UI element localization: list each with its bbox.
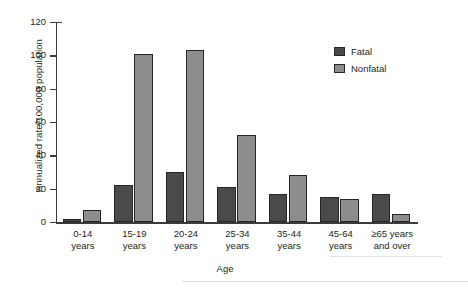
y-tick-label-80: 80 [14,83,46,94]
y-tick-label-20: 20 [14,183,46,194]
bar-fatal [269,194,288,222]
bar-nonfatal [134,54,153,222]
chart-legend: Fatal Nonfatal [334,44,386,78]
bar-nonfatal [289,175,308,222]
bar-group [114,22,153,222]
y-tick-label-60: 60 [14,116,46,127]
y-tick-label-100: 100 [14,49,46,60]
legend-label-fatal: Fatal [351,46,372,57]
bar-nonfatal [392,214,411,222]
bar-nonfatal [83,210,102,222]
bar-group [269,22,308,222]
bar-nonfatal [237,135,256,222]
x-axis-title: Age [0,263,468,274]
y-tick-label-40: 40 [14,149,46,160]
scan-artifact-line [182,281,468,282]
bar-fatal [166,172,185,222]
y-tick-60 [50,122,56,123]
bar-nonfatal [340,199,359,222]
bar-group [63,22,102,222]
y-tick-label-0: 0 [14,216,46,227]
y-tick-20 [50,189,56,190]
y-tick-80 [50,89,56,90]
bar-nonfatal [186,50,205,222]
bar-fatal [217,187,236,222]
x-tick-label-line: ≥65 years [358,228,426,240]
x-axis-baseline [56,222,418,224]
y-tick-100 [50,55,56,56]
legend-item-nonfatal: Nonfatal [334,61,386,76]
legend-swatch-nonfatal [334,64,345,73]
x-tick-label: ≥65 yearsand over [358,228,426,252]
y-tick-120 [50,22,56,23]
legend-item-fatal: Fatal [334,44,386,59]
y-tick-label-120: 120 [14,16,46,27]
x-tick-label-line: and over [358,240,426,252]
y-tick-40 [50,155,56,156]
bar-fatal [372,194,391,222]
bar-group [166,22,205,222]
scan-artifact-line-secondary [330,256,442,257]
bar-fatal [320,197,339,222]
bar-chart-figure: Annualized rate/100,000 population 02040… [0,0,468,290]
x-axis-title-text: Age [217,263,234,274]
bar-group [217,22,256,222]
legend-swatch-fatal [334,47,345,56]
bar-fatal [114,185,133,222]
legend-label-nonfatal: Nonfatal [351,63,386,74]
